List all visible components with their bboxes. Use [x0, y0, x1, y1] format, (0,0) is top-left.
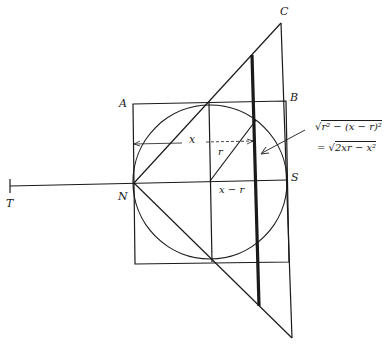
label-x-minus-r: x − r	[219, 185, 244, 195]
hypotenuse-N-bottom	[134, 183, 292, 338]
formula-line-2: = √2xr − x²	[317, 141, 376, 153]
label-S: S	[291, 172, 299, 183]
radius-line	[210, 120, 256, 181]
axis-line-TS	[10, 180, 287, 186]
equals-sign: =	[317, 142, 325, 153]
x-dimension-line	[134, 143, 182, 144]
label-x: x	[189, 134, 195, 145]
formula-pointer-head	[261, 147, 269, 154]
x-dimension-line-right	[206, 141, 253, 142]
label-r: r	[218, 147, 223, 157]
diagram-lines	[0, 0, 389, 358]
label-A: A	[119, 98, 127, 109]
geometry-diagram: C A B S N T x r x − r √r² − (x − r)² = √…	[0, 0, 389, 358]
label-N: N	[118, 191, 128, 202]
vertical-diameter	[209, 103, 212, 262]
formula-pointer	[262, 130, 305, 153]
formula-radicand-2: 2xr − x²	[335, 141, 376, 153]
label-T: T	[6, 198, 13, 209]
formula-radicand-1: r² − (x − r)²	[321, 120, 382, 132]
label-C: C	[280, 6, 288, 17]
formula-line-1: √r² − (x − r)²	[315, 120, 382, 132]
label-B: B	[290, 92, 298, 103]
